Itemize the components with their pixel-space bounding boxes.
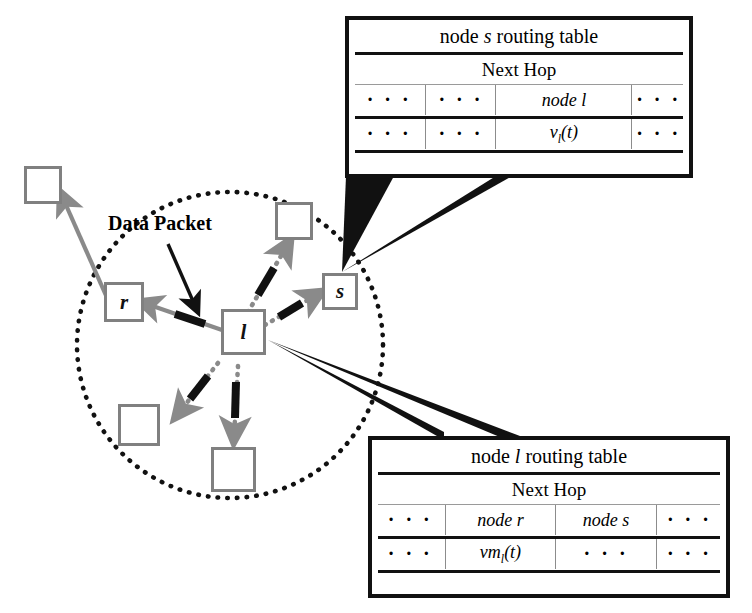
data-packet-label: Data Packet	[108, 212, 212, 235]
table-row[interactable]: · · · · · · vl(t) · · ·	[353, 119, 685, 149]
cell-s-r1c3: node l	[496, 85, 632, 115]
node-r[interactable]: r	[104, 282, 144, 322]
callout-s-to-upper-table	[342, 176, 394, 272]
node-s-table-title-prefix: node	[440, 25, 484, 47]
node-l-table-grid-2: · · · vml(t) · · · · · ·	[376, 539, 722, 569]
node-l-routing-table[interactable]: node l routing table Next Hop · · · node…	[368, 436, 730, 598]
cell-l-r2c3: · · ·	[556, 539, 656, 569]
node-s-label: s	[336, 281, 344, 302]
cell-l-r2c4: · · ·	[656, 539, 722, 569]
node-s-table-title-var: s	[484, 25, 492, 47]
formula-vm-l-t: vml(t)	[480, 542, 521, 562]
packet-dash-l-to-s	[279, 303, 302, 317]
node-l-table-title-suffix: routing table	[520, 445, 627, 467]
cell-l-r1c2: node r	[445, 505, 556, 535]
cell-s-r1c2: · · ·	[426, 85, 496, 115]
node-l-table-subheader: Next Hop	[376, 475, 722, 504]
node-l-table-grid: · · · node r node s · · ·	[376, 505, 722, 535]
node-l[interactable]: l	[221, 309, 266, 355]
node-s-table-subheader: Next Hop	[353, 55, 685, 84]
formula-v-l-t: vl(t)	[550, 122, 578, 142]
packet-dash-l-to-inner-top	[258, 268, 274, 295]
cell-l-r1c3: node s	[556, 505, 656, 535]
node-s-table-grid: · · · · · · node l · · ·	[353, 85, 685, 115]
node-inner-top[interactable]	[275, 202, 313, 240]
cell-s-r1c1: · · ·	[353, 85, 426, 115]
node-l-label: l	[241, 322, 247, 343]
cell-l-r2c1: · · ·	[376, 539, 445, 569]
table-row[interactable]: · · · vml(t) · · · · · ·	[376, 539, 722, 569]
node-l-table-rule-bottom	[378, 570, 720, 573]
node-s-table-title-suffix: routing table	[492, 25, 599, 47]
table-row[interactable]: · · · · · · node l · · ·	[353, 85, 685, 115]
callout-l-to-lower-table	[268, 340, 444, 440]
node-s-table-grid-2: · · · · · · vl(t) · · ·	[353, 119, 685, 149]
packet-dash-l-to-r	[175, 314, 205, 324]
figure-canvas: Data Packet r s l node s routing table N…	[0, 0, 752, 613]
node-s-table-rule-bottom	[355, 150, 683, 153]
node-s-routing-table[interactable]: node s routing table Next Hop · · · · · …	[345, 16, 693, 178]
cell-s-r2c1: · · ·	[353, 119, 426, 149]
cell-s-r1c4: · · ·	[632, 85, 685, 115]
cell-s-r2c4: · · ·	[632, 119, 685, 149]
node-l-table-title-prefix: node	[471, 445, 515, 467]
node-l-table-title: node l routing table	[376, 443, 722, 471]
table-row[interactable]: · · · node r node s · · ·	[376, 505, 722, 535]
link-r-to-outer	[62, 196, 108, 300]
node-inner-bottom-left[interactable]	[118, 404, 160, 446]
node-outer-top-left[interactable]	[24, 166, 62, 204]
node-inner-bottom[interactable]	[211, 447, 256, 492]
node-r-label: r	[120, 292, 128, 313]
node-s[interactable]: s	[322, 273, 358, 310]
cell-l-r1c1: · · ·	[376, 505, 445, 535]
data-packet-leader-arrow	[168, 244, 196, 308]
packet-dash-l-to-inner-bottom	[235, 382, 236, 418]
cell-l-r1c4: · · ·	[656, 505, 722, 535]
cell-s-r2c3-formula: vl(t)	[496, 119, 632, 149]
callout-l-to-lower-table-2	[268, 340, 520, 442]
cell-s-r2c2: · · ·	[426, 119, 496, 149]
packet-dash-l-to-inner-bottom-left	[190, 376, 208, 399]
node-s-table-title: node s routing table	[353, 23, 685, 51]
cell-l-r2c2-formula: vml(t)	[445, 539, 556, 569]
